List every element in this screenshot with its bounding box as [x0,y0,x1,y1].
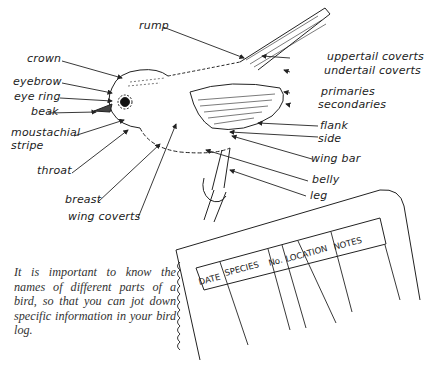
label-leg: leg [310,189,327,202]
label-secondaries: secondaries [318,98,386,111]
label-beak: beak [31,105,59,118]
label-uppertail-coverts: uppertail coverts [327,50,424,63]
label-wing-bar: wing bar [311,152,360,165]
label-primaries: primaries [321,85,375,98]
label-side: side [318,132,341,145]
label-crown: crown [27,52,61,65]
label-stripe: stripe [11,139,44,152]
label-rump: rump [139,19,169,32]
label-eyebrow: eyebrow [13,75,62,88]
label-throat: throat [37,164,72,177]
label-wing-coverts: wing coverts [68,210,141,223]
bird-illustration [94,8,330,222]
label-flank: flank [320,119,348,132]
label-belly: belly [312,173,339,186]
label-moustachial: moustachial [11,126,80,139]
label-undertail-coverts: undertail coverts [324,64,421,77]
label-breast: breast [65,193,101,206]
label-eye-ring: eye ring [14,90,61,103]
caption-text: It is important to know the names of dif… [14,265,176,338]
